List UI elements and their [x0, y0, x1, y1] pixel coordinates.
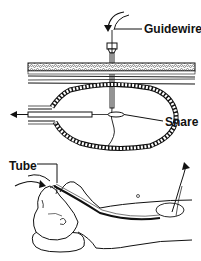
curved-arrow-icon	[15, 181, 42, 186]
arrow-head-icon	[104, 25, 112, 32]
arrow-left-icon	[10, 111, 17, 118]
snare-loop	[108, 112, 124, 117]
patient-torso-top	[60, 182, 192, 208]
umbilicus	[137, 195, 140, 198]
endoscope-catheter	[28, 112, 92, 117]
diagram-figure: Guidewire Snare Tube	[0, 0, 201, 261]
guidewire-label: Guidewire	[144, 23, 201, 35]
tube-label: Tube	[9, 160, 37, 172]
arrow-up-icon	[182, 162, 190, 170]
patient-torso-bottom	[78, 232, 192, 249]
snare-leader-line	[124, 115, 163, 122]
illustration-canvas	[0, 0, 201, 261]
bottom-panel	[15, 162, 192, 252]
stomach-outline	[156, 203, 184, 217]
patient-head	[33, 186, 78, 240]
snare-label: Snare	[165, 116, 198, 128]
